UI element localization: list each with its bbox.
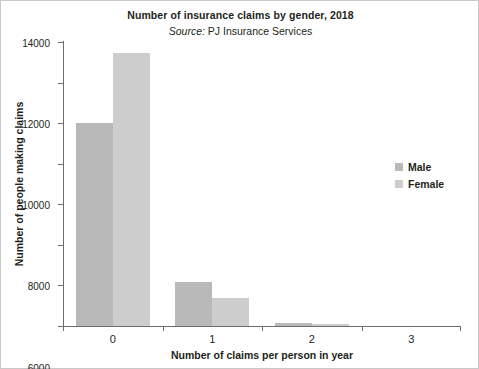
x-tick-label: 0 [110, 333, 116, 345]
bar-male-0 [76, 123, 113, 326]
x-tick [362, 326, 363, 331]
chart-frame: Number of insurance claims by gender, 20… [0, 0, 479, 369]
y-tick: 12000 [58, 83, 63, 84]
x-tick [460, 326, 461, 331]
y-tick: 10000 [58, 123, 63, 124]
subtitle-source-text: PJ Insurance Services [208, 25, 312, 37]
legend-label: Female [408, 178, 444, 190]
y-tick: 8000 [58, 164, 63, 165]
bar-female-2 [312, 324, 349, 326]
legend-item-male[interactable]: Male [395, 161, 444, 173]
y-axis-label: Number of people making claims [13, 102, 25, 267]
chart-legend: MaleFemale [395, 161, 444, 195]
subtitle-source-label: Source: [169, 25, 205, 37]
y-tick-label: 6000 [28, 362, 50, 369]
legend-swatch-icon [395, 163, 403, 171]
x-tick [262, 326, 263, 331]
y-tick-label: 14000 [22, 38, 50, 49]
x-tick-label: 1 [209, 333, 215, 345]
chart-subtitle: Source: PJ Insurance Services [1, 25, 479, 37]
bar-male-1 [175, 282, 212, 326]
x-tick [163, 326, 164, 331]
legend-swatch-icon [395, 180, 403, 188]
y-tick-label: 12000 [22, 119, 50, 130]
x-tick [63, 326, 64, 331]
x-tick-label: 3 [408, 333, 414, 345]
legend-item-female[interactable]: Female [395, 178, 444, 190]
x-axis-label: Number of claims per person in year [63, 349, 461, 361]
y-tick: 6000 [58, 204, 63, 205]
bar-female-1 [212, 298, 249, 326]
y-axis-line [63, 41, 64, 327]
x-tick-label: 2 [309, 333, 315, 345]
bar-female-0 [113, 53, 150, 326]
bar-male-2 [275, 323, 312, 326]
y-tick-label: 10000 [22, 200, 50, 211]
y-tick: 4000 [58, 245, 63, 246]
y-tick-label: 8000 [28, 281, 50, 292]
y-tick: 2000 [58, 285, 63, 286]
y-tick: 14000 [58, 42, 63, 43]
chart-title: Number of insurance claims by gender, 20… [1, 9, 479, 21]
legend-label: Male [408, 161, 431, 173]
